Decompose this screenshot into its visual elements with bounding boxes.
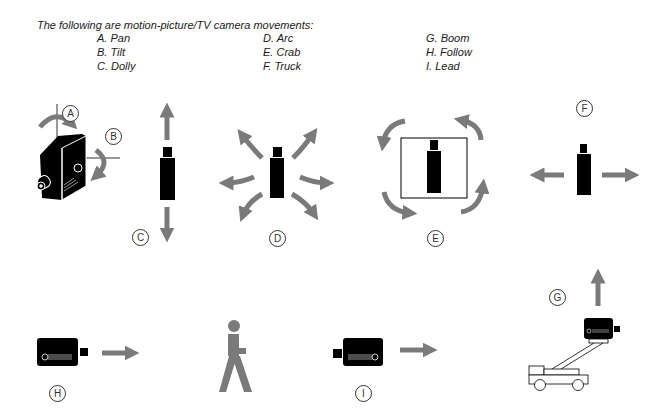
tilt-arrow-icon xyxy=(96,150,104,176)
walking-person-icon xyxy=(219,320,252,392)
marker-i: I xyxy=(355,385,372,402)
diagram-canvas xyxy=(0,0,669,420)
marker-e: E xyxy=(427,230,444,247)
marker-a: A xyxy=(62,105,79,122)
dolly-camera-icon xyxy=(160,110,175,235)
boom-crane-icon xyxy=(529,276,620,391)
marker-h: H xyxy=(49,385,66,402)
arc-camera-icon xyxy=(226,134,327,215)
marker-f: F xyxy=(576,100,593,117)
marker-c: C xyxy=(132,229,149,246)
follow-camera-icon xyxy=(37,338,132,366)
truck-camera-icon xyxy=(537,144,632,195)
crab-camera-icon xyxy=(383,120,483,213)
marker-d: D xyxy=(269,230,286,247)
lead-camera-icon xyxy=(333,338,430,366)
pan-tilt-camera-icon xyxy=(36,104,120,200)
marker-b: B xyxy=(105,128,122,145)
marker-g: G xyxy=(549,289,566,306)
